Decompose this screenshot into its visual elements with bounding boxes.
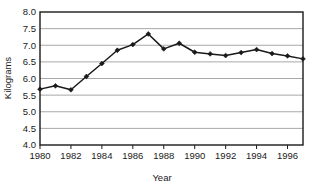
x-tick-label: 1996 [277, 150, 298, 161]
x-tick-labels: 198019821984198619881990199219941996 [29, 150, 298, 161]
x-axis-title: Year [152, 172, 171, 183]
y-tick-label: 5.0 [23, 106, 36, 117]
x-tick-label: 1994 [246, 150, 267, 161]
y-tick-label: 4.0 [23, 139, 36, 150]
x-tick-label: 1980 [29, 150, 50, 161]
y-tick-label: 7.5 [23, 23, 36, 34]
y-tick-label: 6.0 [23, 73, 36, 84]
x-tick-label: 1984 [91, 150, 112, 161]
y-tick-label: 7.0 [23, 40, 36, 51]
x-tick-label: 1992 [215, 150, 236, 161]
x-tick-label: 1982 [60, 150, 81, 161]
line-chart: 8.07.57.06.56.05.55.04.54.0 198019821984… [0, 0, 313, 187]
y-tick-labels: 8.07.57.06.56.05.55.04.54.0 [23, 6, 36, 150]
y-tick-label: 5.5 [23, 90, 36, 101]
x-tick-label: 1988 [153, 150, 174, 161]
chart-svg: 8.07.57.06.56.05.55.04.54.0 198019821984… [0, 0, 313, 187]
y-tick-label: 6.5 [23, 56, 36, 67]
y-axis-title: Kilograms [2, 57, 13, 99]
y-tick-label: 8.0 [23, 6, 36, 17]
y-tick-label: 4.5 [23, 123, 36, 134]
x-tick-label: 1986 [122, 150, 143, 161]
x-tick-label: 1990 [184, 150, 205, 161]
